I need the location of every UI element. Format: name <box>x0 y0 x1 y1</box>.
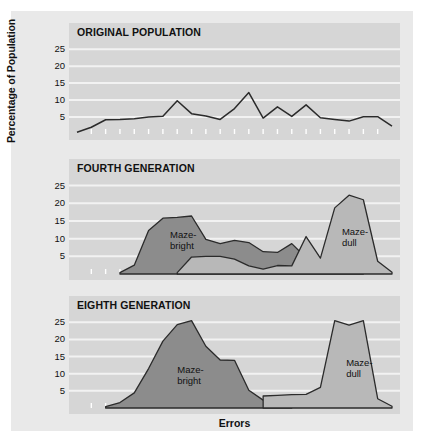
y-axis-ticks: 510152025 <box>39 159 65 280</box>
y-tick-label: 20 <box>54 334 65 343</box>
y-tick-label: 10 <box>54 95 65 104</box>
y-tick-label: 5 <box>60 386 65 395</box>
figure-container: Percentage of Population ORIGINAL POPULA… <box>11 11 413 431</box>
area-label-line1: Maze- <box>177 364 203 375</box>
panel-title: FOURTH GENERATION <box>77 162 195 174</box>
area-label-maze-dull: Maze-dull <box>342 226 368 248</box>
area-label-line1: Maze- <box>346 357 372 368</box>
area-label-line1: Maze- <box>170 229 196 240</box>
area-label-line2: bright <box>177 375 203 386</box>
area-label-line2: bright <box>170 240 196 251</box>
y-axis-ticks: 510152025 <box>39 23 65 140</box>
panel-chart-svg <box>69 23 400 140</box>
y-tick-label: 25 <box>54 44 65 53</box>
panel-title: EIGHTH GENERATION <box>77 299 191 311</box>
area-label-line2: dull <box>342 237 368 248</box>
panel-original-population: ORIGINAL POPULATION <box>69 23 400 140</box>
area-label-line2: dull <box>346 368 372 379</box>
area-label-line1: Maze- <box>342 226 368 237</box>
y-axis-title: Percentage of Population <box>5 1 17 161</box>
y-tick-label: 25 <box>54 181 65 190</box>
y-tick-label: 5 <box>60 112 65 121</box>
y-tick-label: 15 <box>54 78 65 87</box>
y-axis-ticks: 510152025 <box>39 296 65 414</box>
panel-chart-svg <box>69 296 400 414</box>
panel-fourth-generation: FOURTH GENERATION Maze-bright Maze-dull <box>69 159 400 280</box>
area-label-maze-dull: Maze-dull <box>346 357 372 379</box>
y-tick-label: 10 <box>54 234 65 243</box>
panel-eighth-generation: EIGHTH GENERATION Maze-bright Maze-dull <box>69 296 400 414</box>
y-tick-label: 25 <box>54 317 65 326</box>
y-tick-label: 15 <box>54 216 65 225</box>
y-tick-label: 20 <box>54 61 65 70</box>
y-tick-label: 15 <box>54 352 65 361</box>
x-axis-title: Errors <box>69 417 400 429</box>
panel-title: ORIGINAL POPULATION <box>77 26 201 38</box>
area-label-maze-bright: Maze-bright <box>170 229 196 251</box>
y-tick-label: 5 <box>60 251 65 260</box>
panel-chart-svg <box>69 159 400 280</box>
y-tick-label: 10 <box>54 369 65 378</box>
area-label-maze-bright: Maze-bright <box>177 364 203 386</box>
y-tick-label: 20 <box>54 198 65 207</box>
